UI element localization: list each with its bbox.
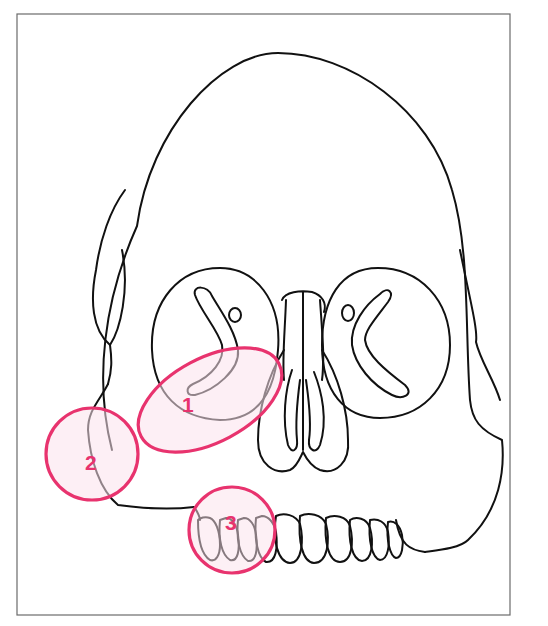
right-orbit-foramen — [342, 305, 354, 321]
skull-diagram: 1 2 3 — [0, 0, 548, 626]
zone-3-label: 3 — [225, 511, 237, 534]
nasal-bridge — [282, 291, 325, 450]
left-orbit-foramen — [229, 308, 241, 322]
right-cheek-contour — [460, 250, 500, 400]
left-nasal-concha — [285, 370, 300, 450]
zone-1-highlight: 1 — [121, 326, 298, 473]
zone-1-label: 1 — [182, 393, 194, 416]
zone-3-highlight: 3 — [189, 487, 275, 573]
left-temporal-line — [108, 250, 125, 384]
right-nasal-concha — [306, 372, 324, 450]
zone-2-highlight: 2 — [46, 408, 138, 500]
zone-1-ellipse — [121, 326, 298, 473]
zone-2-label: 2 — [85, 451, 97, 474]
right-orbit-fissure — [352, 290, 409, 397]
